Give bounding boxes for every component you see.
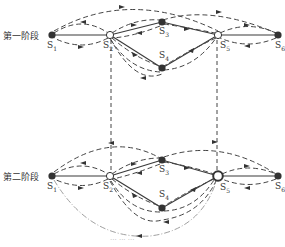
node-s1	[48, 172, 55, 179]
node-s6	[274, 172, 281, 179]
node-s1	[48, 31, 55, 38]
node-s5	[214, 31, 221, 38]
label-s2-stage2: S2	[103, 181, 113, 193]
label-s6-stage1: S6	[275, 40, 285, 52]
node-s4	[158, 204, 165, 211]
node-s3	[158, 18, 165, 25]
node-s3	[158, 156, 165, 163]
label-s1-stage1: S1	[47, 40, 57, 52]
node-s2	[106, 31, 113, 38]
node-s4	[158, 64, 165, 71]
label-s3-stage1: S3	[159, 26, 169, 38]
stage-2-label: 第二阶段	[3, 170, 39, 183]
label-s4-stage1: S4	[159, 50, 169, 62]
node-s2	[106, 172, 113, 179]
node-s5	[213, 171, 223, 181]
label-s1-stage2: S1	[47, 181, 57, 193]
label-s4-stage2: S4	[159, 189, 169, 201]
stage-1-label: 第一阶段	[3, 29, 39, 42]
route-network-diagram	[0, 0, 285, 247]
label-s5-stage2: S5	[220, 182, 230, 194]
stage-1-graph	[48, 5, 281, 80]
label-s3-stage2: S3	[159, 164, 169, 176]
node-s6	[274, 31, 281, 38]
label-s2-stage1: S2	[103, 40, 113, 52]
figure-caption: ··· ··· ···	[110, 236, 134, 244]
label-s6-stage2: S6	[275, 181, 285, 193]
label-s5-stage1: S5	[220, 40, 230, 52]
